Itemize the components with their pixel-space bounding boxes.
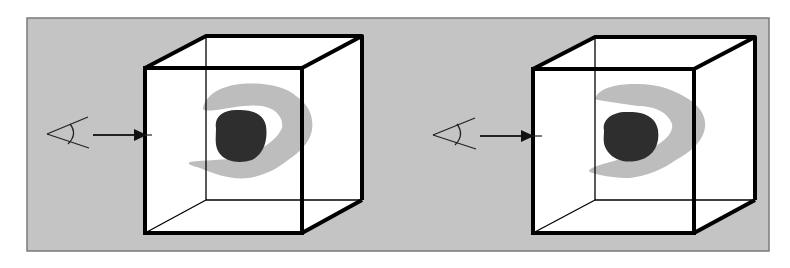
inner-blob <box>604 112 659 162</box>
diagram-canvas <box>0 0 790 268</box>
cube-left <box>145 36 362 233</box>
cube-right <box>533 37 755 233</box>
inner-blob <box>216 110 267 162</box>
